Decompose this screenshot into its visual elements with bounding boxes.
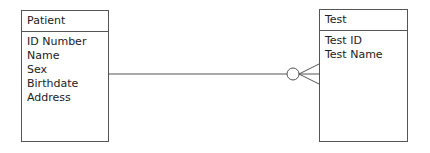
attribute: Name xyxy=(27,49,108,63)
attribute: Test ID xyxy=(325,34,407,48)
entity-title: Patient xyxy=(22,11,108,32)
zero-optionality-icon xyxy=(287,68,299,80)
entity-test[interactable]: Test Test ID Test Name xyxy=(319,9,408,142)
attribute-list: Test ID Test Name xyxy=(320,31,407,62)
attribute: Sex xyxy=(27,63,108,77)
attribute: Address xyxy=(27,91,108,105)
entity-patient[interactable]: Patient ID Number Name Sex Birthdate Add… xyxy=(21,10,109,142)
crows-foot-many-icon xyxy=(299,64,319,84)
attribute: ID Number xyxy=(27,35,108,49)
entity-title: Test xyxy=(320,10,407,31)
attribute: Test Name xyxy=(325,48,407,62)
attribute: Birthdate xyxy=(27,77,108,91)
attribute-list: ID Number Name Sex Birthdate Address xyxy=(22,32,108,105)
